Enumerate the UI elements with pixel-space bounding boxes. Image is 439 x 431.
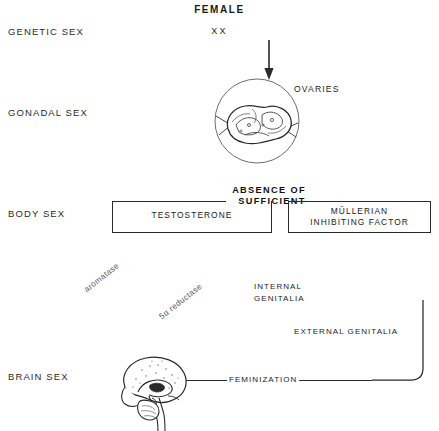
enzyme-label-aromatase: aromatase <box>82 261 121 294</box>
feminization-rule-right <box>299 380 372 381</box>
karyotype-label: XX <box>211 26 227 36</box>
brain-illustration <box>112 352 200 431</box>
mullerian-inhibiting-factor-box-group: MÜLLERIAN INHIBITING FACTOR <box>288 201 431 233</box>
testosterone-box-bottom-border <box>112 232 272 233</box>
feminization-connector-path <box>372 300 432 390</box>
bracket-label-line1: ABSENCE OF <box>219 185 319 195</box>
mif-box-top-border <box>288 201 431 202</box>
feminization-label: FEMINIZATION <box>229 375 297 384</box>
mif-box-label-line2: INHIBITING FACTOR <box>288 217 431 228</box>
row-label-body-sex: BODY SEX <box>8 208 65 219</box>
enzyme-label-5a-reductase: 5α reductase <box>157 282 203 321</box>
internal-genitalia-label-line1: INTERNAL <box>254 281 305 293</box>
internal-genitalia-label-line2: GENITALIA <box>254 293 305 305</box>
row-label-brain-sex: BRAIN SEX <box>8 371 69 382</box>
testosterone-box-top-border-left <box>112 201 226 202</box>
row-label-gonadal-sex: GONADAL SEX <box>8 107 88 118</box>
mif-box-label-line1: MÜLLERIAN <box>288 206 431 217</box>
figure-canvas: GENETIC SEX GONADAL SEX BODY SEX BRAIN S… <box>0 0 439 431</box>
testosterone-box-label: TESTOSTERONE <box>112 210 272 221</box>
testosterone-box-group: TESTOSTERONE <box>112 201 272 233</box>
mif-box-bottom-border <box>288 232 431 233</box>
ovaries-label: OVARIES <box>294 84 340 94</box>
figure-title: FEMALE <box>194 4 245 15</box>
